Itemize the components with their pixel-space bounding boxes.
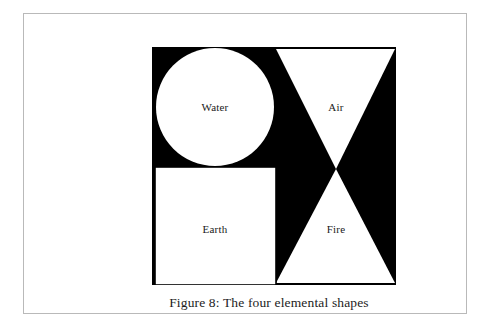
- page-frame-border: Water Air Earth Fire Figure 8: The four …: [23, 13, 467, 314]
- figure-illustration: Water Air Earth Fire: [152, 47, 396, 285]
- document-page: Water Air Earth Fire Figure 8: The four …: [0, 0, 491, 329]
- elemental-shapes-svg: [152, 47, 396, 285]
- earth-square-shape: [155, 167, 276, 285]
- figure-caption: Figure 8: The four elemental shapes: [47, 295, 491, 311]
- water-circle-shape: [156, 48, 274, 166]
